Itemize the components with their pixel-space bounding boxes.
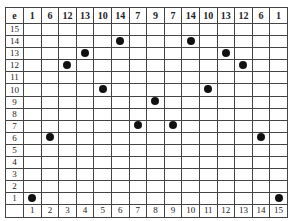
grid-cell [217, 84, 235, 96]
grid-cell [252, 72, 270, 84]
grid-cell [41, 84, 59, 96]
grid-cell [164, 157, 182, 169]
grid-cell [164, 96, 182, 108]
grid-cell [252, 144, 270, 156]
grid-cell [24, 96, 42, 108]
grid-cell [41, 181, 59, 193]
grid-row: 5 [6, 144, 288, 156]
grid-cell [94, 84, 112, 96]
grid-cell [235, 144, 253, 156]
grid-cell [59, 193, 77, 205]
grid-cell [94, 193, 112, 205]
grid-cell [270, 120, 288, 132]
dot-grid-table: e161213101479714101312611514131211109876… [5, 7, 288, 218]
column-label: 3 [59, 205, 77, 217]
header-value-cell: 9 [147, 8, 165, 24]
header-value-cell: 14 [111, 8, 129, 24]
grid-cell [59, 169, 77, 181]
grid-cell [270, 36, 288, 48]
grid-cell [217, 60, 235, 72]
grid-cell [129, 108, 147, 120]
column-label: 8 [147, 205, 165, 217]
grid-cell [235, 157, 253, 169]
grid-cell [41, 144, 59, 156]
grid-cell [41, 96, 59, 108]
grid-cell [147, 181, 165, 193]
column-label: 2 [41, 205, 59, 217]
grid-row: 14 [6, 36, 288, 48]
grid-cell [147, 120, 165, 132]
grid-cell [217, 157, 235, 169]
grid-cell [24, 48, 42, 60]
grid-cell [235, 181, 253, 193]
grid-cell [164, 144, 182, 156]
grid-cell [129, 193, 147, 205]
dot-marker-icon [28, 194, 36, 202]
grid-cell [94, 132, 112, 144]
header-value-cell: 1 [270, 8, 288, 24]
grid-row: 3 [6, 169, 288, 181]
grid-cell [24, 84, 42, 96]
grid-cell [41, 169, 59, 181]
grid-cell [76, 120, 94, 132]
grid-cell [94, 169, 112, 181]
grid-cell [235, 132, 253, 144]
grid-cell [164, 120, 182, 132]
header-value-cell: 10 [94, 8, 112, 24]
grid-cell [270, 132, 288, 144]
dot-marker-icon [222, 49, 230, 57]
grid-row: 4 [6, 157, 288, 169]
grid-cell [94, 36, 112, 48]
grid-cell [111, 193, 129, 205]
grid-cell [59, 84, 77, 96]
grid-cell [147, 96, 165, 108]
grid-cell [76, 48, 94, 60]
grid-cell [235, 84, 253, 96]
grid-cell [199, 96, 217, 108]
grid-cell [217, 132, 235, 144]
grid-cell [199, 193, 217, 205]
grid-cell [94, 181, 112, 193]
grid-cell [164, 72, 182, 84]
grid-cell [41, 60, 59, 72]
grid-cell [217, 169, 235, 181]
grid-row: 1 [6, 193, 288, 205]
column-label: 9 [164, 205, 182, 217]
grid-cell [252, 169, 270, 181]
grid-cell [129, 132, 147, 144]
grid-cell [235, 36, 253, 48]
row-label: 10 [6, 84, 24, 96]
grid-cell [270, 84, 288, 96]
grid-cell [76, 60, 94, 72]
dot-marker-icon [99, 85, 107, 93]
dot-marker-icon [46, 133, 54, 141]
grid-cell [164, 24, 182, 36]
grid-cell [199, 48, 217, 60]
grid-cell [252, 181, 270, 193]
grid-cell [270, 60, 288, 72]
grid-row: 7 [6, 120, 288, 132]
row-label: 11 [6, 72, 24, 84]
grid-cell [76, 36, 94, 48]
grid-cell [252, 120, 270, 132]
row-label: 13 [6, 48, 24, 60]
dot-marker-icon [239, 61, 247, 69]
grid-cell [235, 120, 253, 132]
grid-cell [147, 169, 165, 181]
grid-cell [182, 132, 200, 144]
grid-cell [164, 181, 182, 193]
grid-row: 15 [6, 24, 288, 36]
dot-marker-icon [151, 97, 159, 105]
grid-cell [111, 169, 129, 181]
grid-cell [24, 144, 42, 156]
column-label: 13 [235, 205, 253, 217]
grid-cell [111, 144, 129, 156]
grid-cell [41, 193, 59, 205]
corner-label: e [6, 8, 24, 24]
grid-cell [217, 181, 235, 193]
dot-marker-icon [81, 49, 89, 57]
grid-cell [252, 84, 270, 96]
grid-cell [235, 96, 253, 108]
grid-cell [59, 132, 77, 144]
grid-cell [59, 120, 77, 132]
